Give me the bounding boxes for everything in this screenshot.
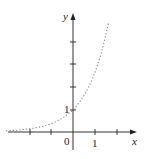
y-tick-label-1: 1 [64, 104, 70, 115]
x-axis-arrow-icon [130, 130, 137, 135]
exponential-curve [6, 22, 109, 131]
y-axis-arrow-icon [71, 13, 76, 20]
plot-area [0, 0, 148, 159]
y-axis-label: y [63, 11, 68, 22]
x-tick-label-1: 1 [92, 138, 98, 149]
x-axis-label: x [132, 136, 137, 147]
origin-label: 0 [64, 136, 70, 147]
